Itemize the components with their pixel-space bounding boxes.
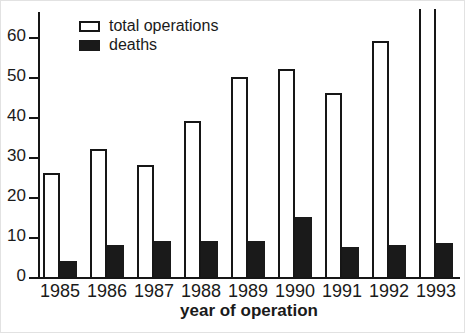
bar-chart: total operations deaths 0102030405060198…	[0, 0, 465, 333]
x-axis-tick-label: 1985	[34, 281, 86, 302]
bar-deaths-1991	[342, 247, 359, 277]
y-axis-tick-label: 20	[0, 186, 26, 206]
y-axis-tick	[29, 237, 38, 239]
bar-deaths-1986	[107, 245, 124, 277]
x-axis-tick-label: 1992	[363, 281, 415, 302]
x-axis-tick-label: 1986	[81, 281, 133, 302]
bar-total-operations-1988	[184, 121, 201, 277]
bar-deaths-1989	[248, 241, 265, 277]
bar-total-operations-1990	[278, 69, 295, 277]
x-axis-tick-label: 1990	[269, 281, 321, 302]
bar-deaths-1988	[201, 241, 218, 277]
bar-total-operations-1985	[43, 173, 60, 277]
bar-deaths-1990	[295, 217, 312, 277]
y-axis-tick-label: 0	[0, 266, 26, 286]
y-axis-tick	[29, 157, 38, 159]
bar-total-operations-1987	[137, 165, 154, 277]
y-axis-tick	[29, 37, 38, 39]
x-axis-tick-label: 1993	[410, 281, 462, 302]
y-axis-tick-label: 60	[0, 26, 26, 46]
bar-total-operations-1993	[419, 9, 436, 277]
y-axis-tick-label: 50	[0, 66, 26, 86]
y-axis-tick-label: 10	[0, 226, 26, 246]
bar-deaths-1987	[154, 241, 171, 277]
x-axis-tick-label: 1989	[222, 281, 274, 302]
bar-total-operations-1991	[325, 93, 342, 277]
y-axis-tick	[29, 277, 38, 279]
x-axis-tick-label: 1987	[128, 281, 180, 302]
y-axis-tick	[29, 197, 38, 199]
x-axis-tick-label: 1991	[316, 281, 368, 302]
x-axis-title: year of operation	[38, 301, 460, 321]
plot-area: 0102030405060198519861987198819891990199…	[38, 12, 460, 279]
bar-deaths-1993	[436, 243, 453, 277]
y-axis-tick	[29, 77, 38, 79]
x-axis-tick-label: 1988	[175, 281, 227, 302]
bar-deaths-1985	[60, 261, 77, 277]
bar-total-operations-1989	[231, 77, 248, 277]
y-axis-tick	[29, 117, 38, 119]
bar-total-operations-1986	[90, 149, 107, 277]
bar-total-operations-1992	[372, 41, 389, 277]
y-axis-tick-label: 30	[0, 146, 26, 166]
bar-deaths-1992	[389, 245, 406, 277]
y-axis-tick-label: 40	[0, 106, 26, 126]
